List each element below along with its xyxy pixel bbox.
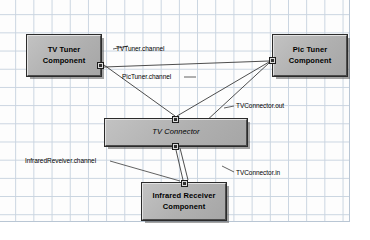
port-infrared-receiver[interactable] [181, 180, 188, 187]
component-pic-tuner-label-line1: Pic Tuner [293, 45, 328, 54]
component-pic-tuner[interactable]: Pic Tuner Component [273, 35, 347, 76]
port-tv-connector-in[interactable] [172, 116, 179, 123]
component-tv-tuner-label: TV Tuner Component [40, 45, 89, 65]
connector-tv-connector[interactable]: TV Connector [105, 119, 247, 146]
edge-label-tvconnector-out: TVConnector.out [236, 102, 284, 109]
diagram-canvas: TV Tuner Component Pic Tuner Component T… [0, 0, 370, 240]
component-tv-tuner-label-line1: TV Tuner [48, 45, 81, 54]
component-infrared-receiver-label: Infrared Receiver Component [150, 191, 219, 211]
connector-tv-connector-label: TV Connector [149, 127, 202, 137]
component-infrared-receiver-label-line2: Component [163, 202, 206, 211]
component-tv-tuner[interactable]: TV Tuner Component [27, 35, 101, 76]
port-tv-connector-out[interactable] [172, 143, 179, 150]
port-pic-tuner[interactable] [269, 57, 276, 64]
component-infrared-receiver[interactable]: Infrared Receiver Component [142, 183, 226, 220]
edge-label-tvtuner-channel: TVTuner.channel [116, 45, 165, 52]
edge-label-infrared-channel: InfraredReveiver.channel [25, 157, 96, 164]
port-tv-tuner[interactable] [97, 62, 104, 69]
component-pic-tuner-label: Pic Tuner Component [286, 45, 335, 65]
edge-label-tvconnector-in: TVConnector.in [236, 169, 280, 176]
component-tv-tuner-label-line2: Component [43, 56, 86, 65]
edge-label-pictuner-channel: PicTuner.channel [122, 73, 171, 80]
component-infrared-receiver-label-line1: Infrared Receiver [153, 191, 216, 200]
component-pic-tuner-label-line2: Component [289, 56, 332, 65]
